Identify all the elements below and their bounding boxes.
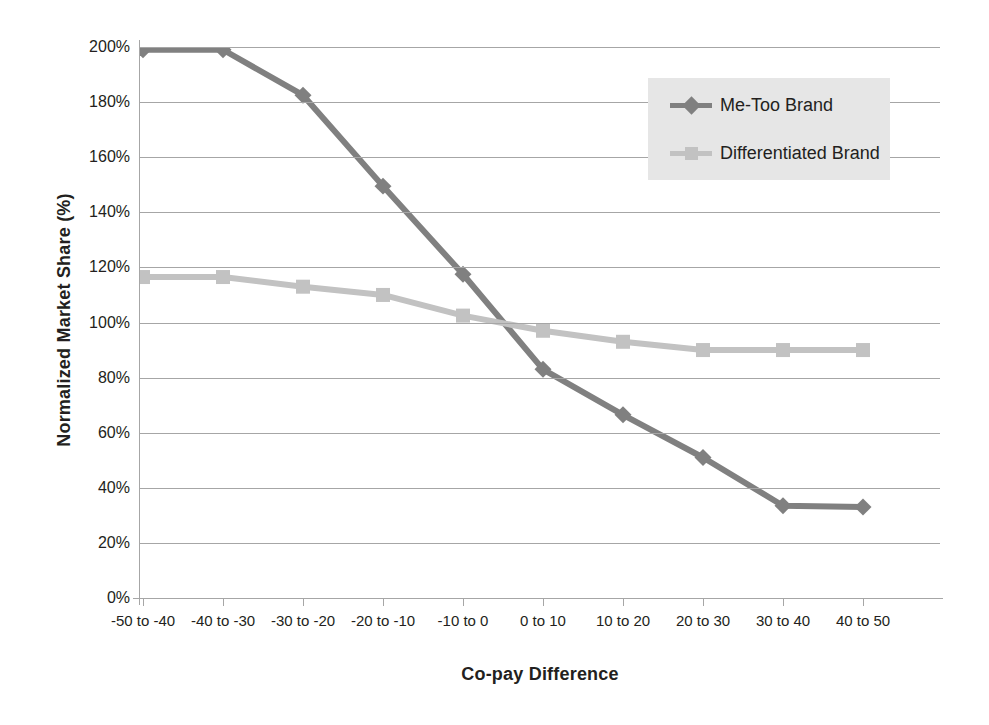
x-tick	[143, 598, 144, 606]
y-tick-label: 0%	[60, 589, 130, 607]
y-tick-label: 100%	[60, 314, 130, 332]
data-point-square-icon	[536, 324, 550, 338]
y-axis-tick-labels: 0%20%40%60%80%100%120%140%160%180%200%	[50, 47, 130, 598]
series-differentiated-brand	[140, 270, 870, 357]
data-point-square-icon	[296, 280, 310, 294]
legend-item-differentiated-brand[interactable]: Differentiated Brand	[670, 140, 880, 166]
x-tick	[303, 598, 304, 606]
y-tick-label: 40%	[60, 479, 130, 497]
x-tick	[703, 598, 704, 606]
legend-label: Me-Too Brand	[720, 95, 833, 116]
gridline	[140, 212, 940, 213]
chart-container: Normalized Market Share (%) 0%20%40%60%8…	[0, 0, 989, 725]
gridline	[140, 378, 940, 379]
gridline	[140, 488, 940, 489]
x-tick	[383, 598, 384, 606]
legend-swatch-square-icon	[670, 140, 712, 166]
data-point-square-icon	[616, 335, 630, 349]
data-point-square-icon	[456, 309, 470, 323]
x-tick	[463, 598, 464, 606]
y-tick-label: 160%	[60, 148, 130, 166]
x-tick	[783, 598, 784, 606]
legend-item-me-too-brand[interactable]: Me-Too Brand	[670, 92, 833, 118]
gridline	[140, 433, 940, 434]
y-tick-label: 60%	[60, 424, 130, 442]
x-tick	[863, 598, 864, 606]
x-tick-label: 40 to 50	[803, 612, 923, 629]
legend-swatch-diamond-icon	[670, 92, 712, 118]
y-tick-label: 200%	[60, 38, 130, 56]
gridline	[140, 543, 940, 544]
x-tick	[223, 598, 224, 606]
gridline	[140, 47, 940, 48]
y-tick-label: 20%	[60, 534, 130, 552]
gridline	[140, 323, 940, 324]
x-tick	[543, 598, 544, 606]
chart-legend: Me-Too Brand Differentiated Brand	[648, 78, 890, 180]
y-tick-label: 120%	[60, 258, 130, 276]
x-tick	[623, 598, 624, 606]
gridline	[140, 598, 940, 599]
data-point-diamond-icon	[855, 499, 872, 516]
gridline	[140, 267, 940, 268]
x-axis-title: Co-pay Difference	[140, 664, 940, 685]
data-point-square-icon	[696, 343, 710, 357]
y-tick-label: 180%	[60, 93, 130, 111]
legend-label: Differentiated Brand	[720, 143, 880, 164]
data-point-square-icon	[216, 270, 230, 284]
y-tick-label: 80%	[60, 369, 130, 387]
series-line	[143, 277, 863, 350]
data-point-square-icon	[376, 288, 390, 302]
data-point-square-icon	[140, 270, 150, 284]
data-point-square-icon	[776, 343, 790, 357]
data-point-square-icon	[856, 343, 870, 357]
y-tick-label: 140%	[60, 203, 130, 221]
